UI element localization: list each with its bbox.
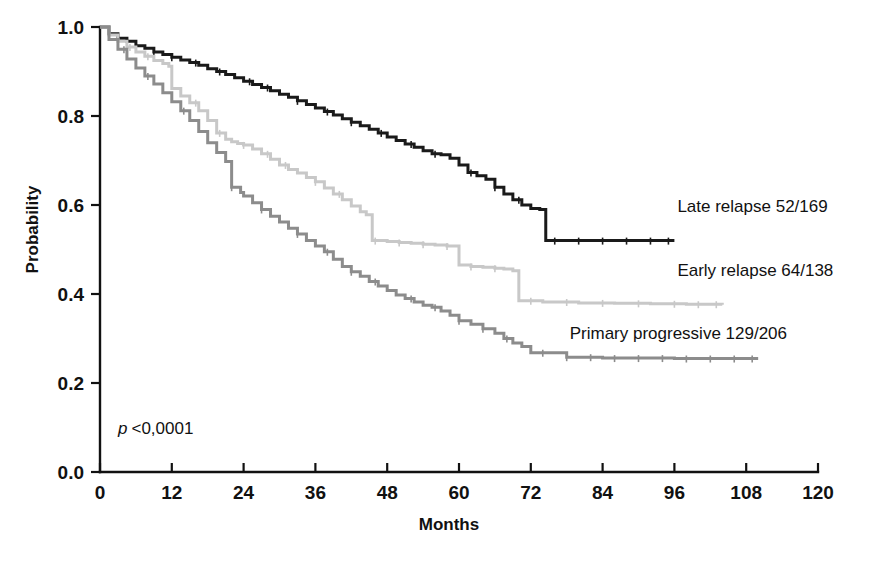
- p-value-text: p<0,0001: [117, 419, 193, 438]
- y-tick-label: 0.2: [58, 373, 84, 394]
- kaplan-meier-chart: 0.00.20.40.60.81.00122436486072849610812…: [0, 0, 882, 568]
- y-tick-label: 0.0: [58, 462, 84, 483]
- y-axis-title: Probability: [23, 185, 42, 273]
- x-tick-label: 12: [161, 482, 182, 503]
- censor-marks-1: [130, 44, 716, 308]
- x-tick-label: 120: [802, 482, 834, 503]
- y-tick-label: 0.6: [58, 195, 84, 216]
- x-axis-title: Months: [419, 515, 479, 534]
- x-tick-label: 0: [95, 482, 106, 503]
- x-tick-label: 72: [520, 482, 541, 503]
- y-tick-label: 0.8: [58, 106, 84, 127]
- y-tick-label: 0.4: [58, 284, 85, 305]
- x-tick-label: 96: [664, 482, 685, 503]
- y-tick-label: 1.0: [58, 17, 84, 38]
- series-labels: Late relapse 52/169Early relapse 64/138P…: [570, 197, 834, 343]
- x-tick-label: 84: [592, 482, 614, 503]
- survival-curves: [100, 27, 758, 363]
- censor-marks-2: [124, 46, 752, 362]
- series-label-2: Primary progressive 129/206: [570, 324, 787, 343]
- survival-curve-2: [100, 27, 758, 359]
- p-value-symbol: p: [117, 419, 127, 438]
- p-value-number: <0,0001: [131, 419, 193, 438]
- survival-curve-1: [100, 27, 722, 305]
- p-value-annotation: p<0,0001: [117, 419, 193, 438]
- x-tick-label: 108: [730, 482, 762, 503]
- survival-curve-0: [100, 27, 674, 241]
- x-tick-label: 48: [377, 482, 398, 503]
- x-tick-label: 60: [448, 482, 469, 503]
- chart-page: 0.00.20.40.60.81.00122436486072849610812…: [0, 0, 882, 568]
- x-tick-label: 36: [305, 482, 326, 503]
- series-label-1: Early relapse 64/138: [677, 261, 833, 280]
- series-label-0: Late relapse 52/169: [677, 197, 827, 216]
- x-tick-label: 24: [233, 482, 255, 503]
